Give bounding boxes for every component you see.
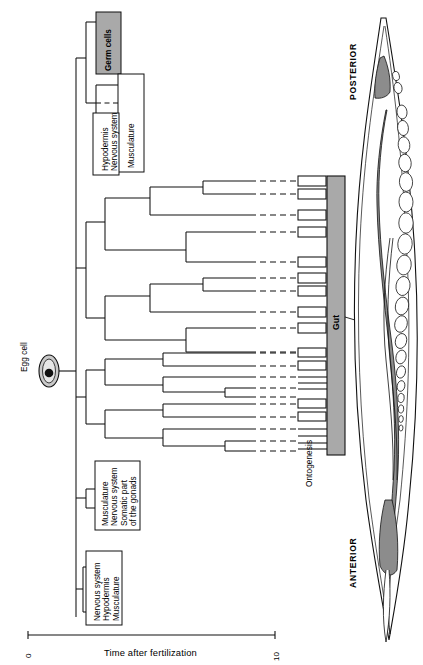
gut-terminal-caps — [298, 176, 326, 421]
musculature-nervous-gonads-text: Musculature Nervous system Somatic part … — [101, 467, 139, 526]
lineage-figure — [0, 0, 423, 665]
musculature-upper-text: Musculature — [127, 123, 136, 168]
time-axis — [28, 631, 275, 639]
hypodermis-nervous-text: Hypodermis Nervous system — [101, 112, 120, 171]
axis-title: Time after fertilization — [104, 648, 197, 657]
tissue-dashed-links — [86, 103, 131, 612]
egg-cell-label: Egg cell — [20, 342, 29, 372]
axis-tick-max: 10 — [272, 652, 281, 661]
nervous-hypodermis-musculature-text: Nervous system Hypodermis Musculature — [93, 562, 121, 621]
nematode-drawing — [354, 18, 417, 642]
ontogenesis-label: Ontogenesis — [305, 440, 314, 487]
axis-tick-min: 0 — [24, 653, 33, 658]
egg-cell-icon — [39, 355, 59, 387]
anterior-label: ANTERIOR — [348, 538, 358, 588]
gut-label: Gut — [332, 315, 341, 330]
germ-cells-text: Germ cells — [104, 29, 113, 71]
posterior-label: POSTERIOR — [348, 43, 358, 100]
terminal-dashed-links — [250, 181, 298, 451]
